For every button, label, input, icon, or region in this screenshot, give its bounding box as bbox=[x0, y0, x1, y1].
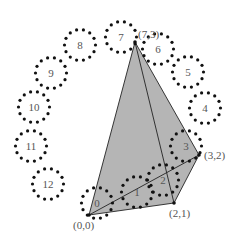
circle-dot bbox=[50, 167, 53, 170]
circle-dot bbox=[88, 56, 91, 59]
vertex-p00 bbox=[87, 213, 91, 217]
circle-dot bbox=[20, 157, 23, 160]
circle-dot bbox=[132, 175, 135, 178]
circle-dot bbox=[39, 132, 42, 135]
circle-dot bbox=[56, 195, 59, 198]
circle-dot bbox=[116, 20, 119, 23]
circle-dot bbox=[81, 195, 84, 198]
circle-dot bbox=[171, 191, 174, 194]
circle-dot bbox=[152, 166, 155, 169]
circle-dot bbox=[141, 47, 144, 50]
circle-label-2: 2 bbox=[160, 174, 166, 186]
circle-dot bbox=[37, 170, 40, 173]
circle-dot bbox=[45, 144, 48, 147]
circle-dot bbox=[166, 60, 169, 63]
circle-dot bbox=[177, 178, 180, 181]
circle-dot bbox=[48, 105, 51, 108]
circle-dot bbox=[63, 65, 66, 68]
circle-dot bbox=[99, 186, 102, 189]
circle-dot bbox=[17, 105, 20, 108]
circle-label-1: 1 bbox=[134, 186, 140, 198]
diagram: 0123456789101112(0,0)(2,1)(3,2)(7,3) bbox=[0, 0, 242, 246]
circle-dot bbox=[188, 160, 191, 163]
circle-dot bbox=[194, 132, 197, 135]
circle-dot bbox=[200, 144, 203, 147]
circle-dot bbox=[202, 70, 205, 73]
circle-dot bbox=[33, 129, 36, 132]
circle-dot bbox=[172, 64, 175, 67]
circle-dot bbox=[34, 71, 37, 74]
circle-dot bbox=[121, 184, 124, 187]
circle-dot bbox=[196, 58, 199, 61]
circle-dot bbox=[43, 167, 46, 170]
circle-dot bbox=[60, 176, 63, 179]
circle-dot bbox=[172, 47, 175, 50]
circle-dot bbox=[111, 201, 114, 204]
circle-label-6: 6 bbox=[155, 43, 161, 55]
circle-dot bbox=[146, 178, 149, 181]
circle-dot bbox=[126, 178, 129, 181]
circle-dot bbox=[175, 172, 178, 175]
coord-label-2-1: (2,1) bbox=[169, 207, 190, 220]
circle-dot bbox=[181, 160, 184, 163]
circle-dot bbox=[183, 55, 186, 58]
circle-dot bbox=[177, 83, 180, 86]
circle-dot bbox=[158, 194, 161, 197]
circle-dot bbox=[149, 197, 152, 200]
circle-dot bbox=[20, 132, 23, 135]
coord-label-7-3: (7,3) bbox=[138, 28, 159, 41]
vertex-p21 bbox=[172, 201, 176, 205]
coord-label-3-2: (3,2) bbox=[204, 149, 225, 162]
circle-dot bbox=[217, 113, 220, 116]
circle-dot bbox=[36, 121, 39, 124]
circle-dot bbox=[116, 51, 119, 54]
circle-dot bbox=[158, 163, 161, 166]
circle-dot bbox=[42, 118, 45, 121]
circle-dot bbox=[92, 37, 95, 40]
circle-dot bbox=[147, 60, 150, 63]
circle-dot bbox=[142, 41, 145, 44]
circle-dot bbox=[219, 106, 222, 109]
circle-dot bbox=[46, 56, 49, 59]
circle-dot bbox=[129, 48, 132, 51]
circle-dot bbox=[92, 50, 95, 53]
circle-dot bbox=[175, 157, 178, 160]
circle-dot bbox=[80, 201, 83, 204]
circle-dot bbox=[188, 129, 191, 132]
circle-dot bbox=[188, 106, 191, 109]
circle-dot bbox=[213, 94, 216, 97]
circle-dot bbox=[43, 138, 46, 141]
circle-dot bbox=[165, 194, 168, 197]
circle-dot bbox=[69, 56, 72, 59]
circle-dot bbox=[105, 42, 108, 45]
circle-dot bbox=[200, 77, 203, 80]
circle-dot bbox=[105, 189, 108, 192]
circle-label-10: 10 bbox=[29, 101, 41, 113]
circle-dot bbox=[23, 118, 26, 121]
circle-dot bbox=[198, 138, 201, 141]
circle-dot bbox=[37, 195, 40, 198]
circle-dot bbox=[35, 65, 38, 68]
circle-dot bbox=[40, 59, 43, 62]
circle-dot bbox=[213, 119, 216, 122]
circle-label-12: 12 bbox=[43, 178, 54, 190]
circle-dot bbox=[142, 54, 145, 57]
circle-dot bbox=[207, 122, 210, 125]
circle-dot bbox=[35, 78, 38, 81]
circle-dot bbox=[88, 31, 91, 34]
circle-label-7: 7 bbox=[118, 31, 124, 43]
circle-label-11: 11 bbox=[26, 140, 37, 152]
circle-dot bbox=[18, 112, 21, 115]
circle-label-0: 0 bbox=[94, 197, 100, 209]
circle-dot bbox=[23, 93, 26, 96]
circle-dot bbox=[31, 182, 34, 185]
circle-dot bbox=[170, 151, 173, 154]
circle-dot bbox=[64, 37, 67, 40]
circle-dot bbox=[46, 99, 49, 102]
circle-dot bbox=[105, 214, 108, 217]
circle-dot bbox=[63, 78, 66, 81]
circle-dot bbox=[75, 59, 78, 62]
shaded-polygon bbox=[89, 42, 199, 215]
circle-dot bbox=[171, 166, 174, 169]
circle-dot bbox=[43, 151, 46, 154]
